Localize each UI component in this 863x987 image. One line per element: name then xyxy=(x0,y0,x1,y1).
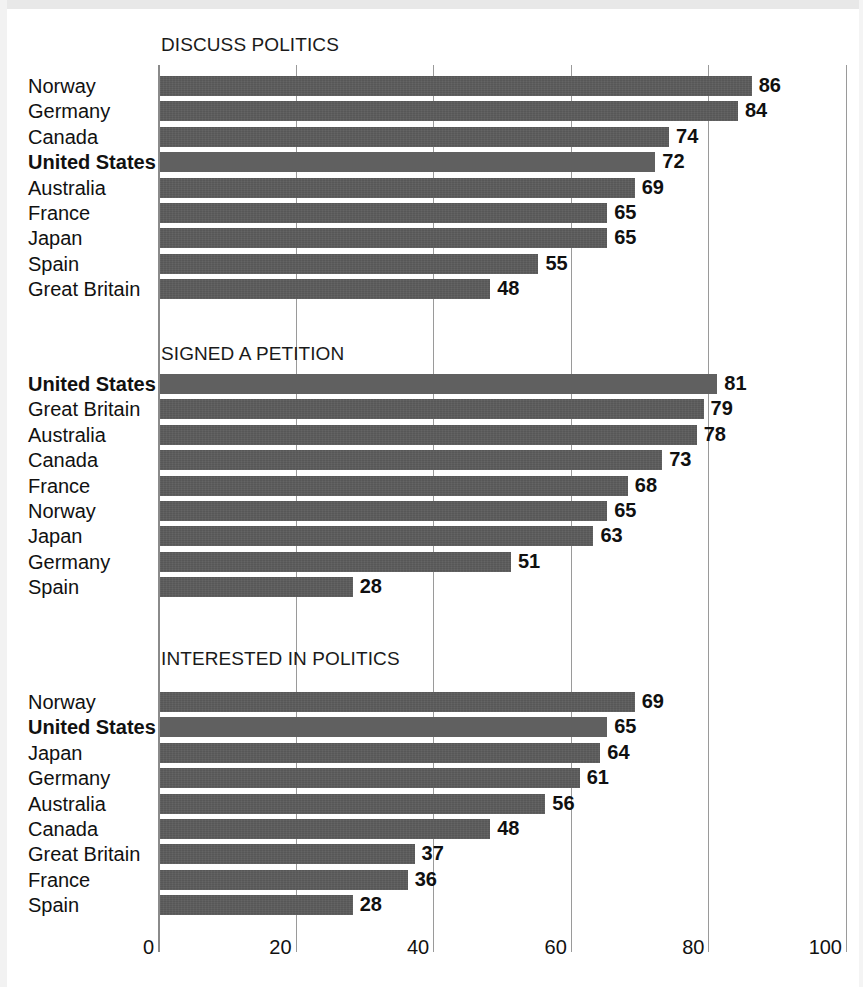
bar xyxy=(160,819,490,839)
bar xyxy=(160,552,511,572)
category-label: United States xyxy=(28,374,156,394)
bar-value-label: 69 xyxy=(642,177,664,197)
bar-value-label: 72 xyxy=(662,151,684,171)
category-label: Germany xyxy=(28,768,110,788)
bar-value-label: 61 xyxy=(587,767,609,787)
bar xyxy=(160,152,655,172)
bar-value-label: 51 xyxy=(518,551,540,571)
bar xyxy=(160,577,353,597)
bar xyxy=(160,895,353,915)
bar xyxy=(160,794,545,814)
bar-value-label: 78 xyxy=(704,424,726,444)
category-label: Great Britain xyxy=(28,844,140,864)
bar xyxy=(160,526,593,546)
bar-value-label: 36 xyxy=(415,869,437,889)
x-tick-label-60: 60 xyxy=(511,937,567,957)
category-label: Spain xyxy=(28,254,79,274)
category-label: France xyxy=(28,870,90,890)
bar xyxy=(160,127,669,147)
category-label: Great Britain xyxy=(28,279,140,299)
category-label: Spain xyxy=(28,895,79,915)
bar-value-label: 65 xyxy=(614,500,636,520)
category-label: Japan xyxy=(28,228,83,248)
bar xyxy=(160,228,607,248)
grouped-bar-chart: DISCUSS POLITICSNorway86Germany84Canada7… xyxy=(0,0,863,987)
bar xyxy=(160,476,628,496)
bar-value-label: 84 xyxy=(745,100,767,120)
bar-value-label: 48 xyxy=(497,818,519,838)
bar-value-label: 81 xyxy=(724,373,746,393)
chart-page: DISCUSS POLITICSNorway86Germany84Canada7… xyxy=(0,0,863,987)
category-label: France xyxy=(28,476,90,496)
bar-value-label: 69 xyxy=(642,691,664,711)
category-label: Spain xyxy=(28,577,79,597)
bar xyxy=(160,203,607,223)
category-label: Australia xyxy=(28,425,106,445)
category-label: Japan xyxy=(28,743,83,763)
bar-value-label: 65 xyxy=(614,202,636,222)
bar-value-label: 74 xyxy=(676,126,698,146)
bar xyxy=(160,76,752,96)
bar-value-label: 56 xyxy=(552,793,574,813)
bar xyxy=(160,692,635,712)
category-label: Great Britain xyxy=(28,399,140,419)
bar-value-label: 73 xyxy=(669,449,691,469)
bar xyxy=(160,279,490,299)
category-label: France xyxy=(28,203,90,223)
panel-title-0: DISCUSS POLITICS xyxy=(161,34,339,56)
bar xyxy=(160,254,538,274)
x-tick-label-40: 40 xyxy=(373,937,429,957)
bar-value-label: 86 xyxy=(759,75,781,95)
gridline-100 xyxy=(846,65,847,952)
bar-value-label: 65 xyxy=(614,227,636,247)
category-label: Germany xyxy=(28,101,110,121)
bar xyxy=(160,844,415,864)
bar xyxy=(160,743,600,763)
panel-title-1: SIGNED A PETITION xyxy=(161,343,344,365)
bar xyxy=(160,101,738,121)
x-tick-label-100: 100 xyxy=(786,937,842,957)
bar xyxy=(160,450,662,470)
bar xyxy=(160,178,635,198)
bar-value-label: 28 xyxy=(360,894,382,914)
bar-value-label: 63 xyxy=(600,525,622,545)
category-label: Canada xyxy=(28,450,98,470)
bar-value-label: 55 xyxy=(545,253,567,273)
category-label: Canada xyxy=(28,127,98,147)
category-label: Canada xyxy=(28,819,98,839)
bar xyxy=(160,717,607,737)
category-label: United States xyxy=(28,152,156,172)
gridline-80 xyxy=(708,65,709,952)
category-label: Norway xyxy=(28,76,96,96)
bar xyxy=(160,399,704,419)
bar xyxy=(160,501,607,521)
bar xyxy=(160,374,717,394)
category-label: Japan xyxy=(28,526,83,546)
bar-value-label: 65 xyxy=(614,716,636,736)
x-tick-label-0: 0 xyxy=(98,937,154,957)
bar-value-label: 37 xyxy=(422,843,444,863)
category-label: Norway xyxy=(28,501,96,521)
panel-title-2: INTERESTED IN POLITICS xyxy=(161,648,400,670)
x-tick-label-80: 80 xyxy=(648,937,704,957)
bar-value-label: 48 xyxy=(497,278,519,298)
bar xyxy=(160,870,408,890)
category-label: Norway xyxy=(28,692,96,712)
x-tick-label-20: 20 xyxy=(236,937,292,957)
bar-value-label: 68 xyxy=(635,475,657,495)
bar-value-label: 64 xyxy=(607,742,629,762)
bar xyxy=(160,425,697,445)
bar xyxy=(160,768,580,788)
bar-value-label: 28 xyxy=(360,576,382,596)
category-label: Australia xyxy=(28,178,106,198)
category-label: Australia xyxy=(28,794,106,814)
bar-value-label: 79 xyxy=(711,398,733,418)
category-label: United States xyxy=(28,717,156,737)
category-label: Germany xyxy=(28,552,110,572)
